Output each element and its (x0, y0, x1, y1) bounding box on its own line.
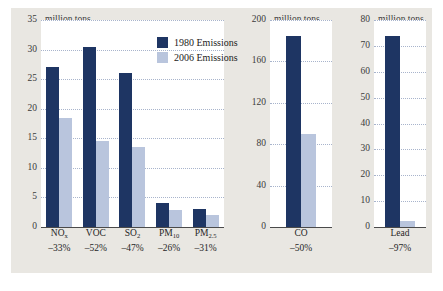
y-axis-tick: 40 (361, 119, 371, 129)
y-axis-tick: 40 (257, 181, 267, 191)
bar-1980-so2 (119, 73, 132, 227)
y-axis-tick: 20 (28, 104, 38, 114)
y-axis-tick: 60 (361, 67, 371, 77)
y-axis-tick: 120 (252, 98, 266, 108)
x-label-so2-name: SO2 (114, 229, 151, 239)
x-label-subscript: 2.5 (208, 232, 216, 239)
bar-2006-pm25 (206, 215, 219, 227)
x-label-text: VOC (86, 228, 106, 238)
bar-1980-pm10 (156, 203, 169, 227)
bar-group-so2 (114, 20, 151, 227)
panel-left: million tons 35 30 25 20 15 10 5 0 (11, 0, 226, 291)
bar-2006-lead (400, 221, 415, 227)
panel-left-x-labels: NOx –33% VOC –52% SO2 –47% PM10 –26% PM2… (41, 229, 224, 253)
x-label-pm25-name: PM2.5 (187, 229, 224, 239)
panel-right-plot-area: 80 70 60 50 40 30 20 10 0 (374, 20, 426, 228)
x-label-text: SO (125, 228, 137, 238)
bar-groups (270, 20, 332, 227)
y-axis-tick: 50 (361, 93, 371, 103)
y-axis-tick: 10 (28, 163, 38, 173)
legend-swatch-2006-icon (157, 52, 168, 63)
bar-groups (374, 20, 426, 227)
x-change-lead: –97% (374, 244, 426, 254)
bar-2006-voc (96, 141, 109, 227)
y-axis-tick: 10 (361, 196, 371, 206)
emissions-comparison-figure: million tons 35 30 25 20 15 10 5 0 (0, 0, 443, 291)
x-label-lead: Lead –97% (374, 229, 426, 253)
y-axis-tick: 80 (257, 139, 267, 149)
bar-2006-pm10 (169, 210, 182, 227)
x-label-lead-name: Lead (374, 229, 426, 239)
bar-1980-nox (46, 67, 59, 227)
x-label-text: CO (294, 228, 307, 238)
x-label-text: NO (51, 228, 65, 238)
x-label-nox-name: NOx (41, 229, 78, 239)
x-label-pm10: PM10 –26% (151, 229, 188, 253)
legend-label-1980: 1980 Emissions (174, 38, 238, 48)
bar-group-co (270, 20, 332, 227)
panel-middle: million tons 200 160 120 80 40 0 CO (240, 0, 336, 291)
x-label-co-name: CO (270, 229, 332, 239)
y-axis-tick: 20 (361, 171, 371, 181)
legend-label-2006: 2006 Emissions (174, 53, 238, 63)
bar-2006-co (301, 134, 316, 227)
bar-1980-lead (385, 36, 400, 227)
y-axis-tick: 5 (32, 193, 37, 203)
y-axis-tick: 0 (365, 222, 370, 232)
x-label-text: Lead (391, 228, 410, 238)
panel-right: million tons 80 70 60 50 40 30 20 10 0 (346, 0, 432, 291)
y-axis-tick: 35 (28, 15, 38, 25)
y-axis-tick: 80 (361, 15, 371, 25)
bar-group-nox (41, 20, 78, 227)
bar-group-lead (374, 20, 426, 227)
bar-1980-pm25 (193, 209, 206, 227)
y-axis-tick: 15 (28, 134, 38, 144)
bar-1980-co (286, 36, 301, 227)
legend-swatch-1980-icon (157, 37, 168, 48)
bar-1980-voc (83, 47, 96, 227)
y-axis-tick: 0 (261, 222, 266, 232)
y-axis-tick: 30 (28, 45, 38, 55)
bar-2006-so2 (132, 147, 145, 227)
legend-item-2006: 2006 Emissions (157, 52, 238, 63)
x-label-co: CO –50% (270, 229, 332, 253)
x-change-nox: –33% (41, 244, 78, 254)
panel-middle-plot-area: 200 160 120 80 40 0 (270, 20, 332, 228)
y-axis-tick: 160 (252, 57, 266, 67)
x-label-pm25: PM2.5 –31% (187, 229, 224, 253)
panel-right-x-labels: Lead –97% (374, 229, 426, 253)
x-label-so2: SO2 –47% (114, 229, 151, 253)
y-axis-tick: 200 (252, 15, 266, 25)
x-change-pm10: –26% (151, 244, 188, 254)
x-change-voc: –52% (78, 244, 115, 254)
panel-middle-x-labels: CO –50% (270, 229, 332, 253)
x-label-subscript: 10 (173, 232, 180, 239)
x-label-pm10-name: PM10 (151, 229, 188, 239)
x-label-voc: VOC –52% (78, 229, 115, 253)
bar-2006-nox (59, 118, 72, 227)
x-label-text: PM (195, 228, 209, 238)
x-label-text: PM (159, 228, 173, 238)
x-label-subscript: 2 (137, 232, 140, 239)
legend-item-1980: 1980 Emissions (157, 37, 238, 48)
panel-left-plot-area: 35 30 25 20 15 10 5 0 (41, 20, 224, 228)
x-label-voc-name: VOC (78, 229, 115, 239)
x-label-subscript: x (65, 232, 68, 239)
y-axis-tick: 0 (32, 222, 37, 232)
legend: 1980 Emissions 2006 Emissions (157, 37, 238, 67)
x-change-pm25: –31% (187, 244, 224, 254)
bar-group-voc (78, 20, 115, 227)
x-change-co: –50% (270, 244, 332, 254)
y-axis-tick: 70 (361, 41, 371, 51)
y-axis-tick: 25 (28, 74, 38, 84)
x-label-nox: NOx –33% (41, 229, 78, 253)
y-axis-tick: 30 (361, 145, 371, 155)
x-change-so2: –47% (114, 244, 151, 254)
